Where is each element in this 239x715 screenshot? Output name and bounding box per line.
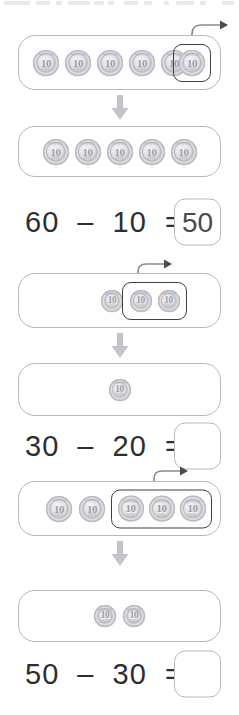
coin-row: NIPPON102021 NIPPON102021 — [19, 605, 220, 627]
coin-tick-bottom: 2021 — [88, 514, 96, 517]
answer-value: 50 — [182, 208, 213, 236]
coin-10-yen: NIPPON102021 — [130, 290, 152, 312]
coin-row: NIPPON102021 NIPPON102021 NIPPON102021 N… — [19, 139, 220, 165]
coin-tick-bottom: 2021 — [164, 304, 172, 307]
coin-10-yen: NIPPON102021 — [101, 290, 123, 312]
coin-tick-bottom: 2021 — [188, 514, 196, 517]
coin-tick-bottom: 2021 — [157, 514, 165, 517]
clipped-header-artifact — [0, 0, 239, 7]
take-away-selection-box: NIPPON102021 — [173, 44, 211, 82]
equation-row-1: 60 – 10 = 50 — [18, 196, 221, 248]
equation-expression: 30 – 20 = — [18, 432, 183, 461]
coin-10-yen: NIPPON102021 — [65, 50, 91, 76]
down-arrow-icon — [110, 333, 129, 359]
equation-expression: 60 – 10 = — [18, 208, 183, 237]
coin-tick-bottom: 2021 — [42, 68, 50, 71]
coin-10-yen: NIPPON102021 — [171, 139, 197, 165]
coin-tray-result-2: NIPPON102021 — [18, 363, 221, 416]
coin-10-yen: NIPPON102021 — [149, 496, 175, 522]
coin-tick-bottom: 2021 — [136, 304, 144, 307]
answer-box[interactable] — [174, 651, 221, 698]
coin-10-yen: NIPPON102021 — [118, 496, 144, 522]
coin-10-yen: NIPPON102021 — [94, 605, 116, 627]
coin-tick-bottom: 2021 — [51, 157, 59, 160]
coin-10-yen: NIPPON102021 — [46, 496, 72, 522]
coin-tray-result-1: NIPPON102021 NIPPON102021 NIPPON102021 N… — [18, 126, 221, 177]
coin-10-yen: NIPPON102021 — [139, 139, 165, 165]
coin-10-yen: NIPPON102021 — [109, 379, 131, 401]
coin-tick-bottom: 2021 — [188, 68, 196, 71]
coin-tray-start-3: NIPPON102021 NIPPON102021 NIPPON102021 N… — [18, 481, 221, 536]
coin-tick-bottom: 2021 — [147, 157, 155, 160]
coin-tick-bottom: 2021 — [115, 393, 123, 396]
worksheet-page: NIPPON102021 NIPPON102021 NIPPON102021 N… — [0, 0, 239, 715]
coin-tick-bottom: 2021 — [138, 68, 146, 71]
coin-tick-bottom: 2021 — [55, 514, 63, 517]
down-arrow-icon — [110, 95, 129, 121]
answer-box[interactable]: 50 — [174, 199, 221, 246]
coin-tick-bottom: 2021 — [101, 620, 109, 623]
coin-tick-bottom: 2021 — [130, 620, 138, 623]
coin-10-yen: NIPPON102021 — [97, 50, 123, 76]
coin-tray-start-2: NIPPON102021 NIPPON102021 NIPPON102021 — [18, 273, 221, 328]
coin-tick-bottom: 2021 — [179, 157, 187, 160]
coin-10-yen: NIPPON102021 — [33, 50, 59, 76]
coin-10-yen: NIPPON102021 — [107, 139, 133, 165]
coin-row: NIPPON102021 — [19, 379, 220, 401]
take-away-selection-box: NIPPON102021 NIPPON102021 NIPPON102021 — [111, 489, 212, 528]
coin-tick-bottom: 2021 — [126, 514, 134, 517]
coin-10-yen: NIPPON102021 — [129, 50, 155, 76]
coin-tick-bottom: 2021 — [83, 157, 91, 160]
equation-expression: 50 – 30 = — [18, 660, 183, 689]
take-away-selection-box: NIPPON102021 NIPPON102021 — [122, 282, 187, 320]
equation-row-3: 50 – 30 = — [18, 648, 221, 700]
coin-tick-bottom: 2021 — [106, 68, 114, 71]
equation-row-2: 30 – 20 = — [18, 420, 221, 472]
coin-tick-bottom: 2021 — [74, 68, 82, 71]
coin-tick-bottom: 2021 — [115, 157, 123, 160]
coin-10-yen: NIPPON102021 — [75, 139, 101, 165]
answer-box[interactable] — [174, 423, 221, 470]
coin-10-yen: NIPPON102021 — [180, 496, 206, 522]
coin-tray-start-1: NIPPON102021 NIPPON102021 NIPPON102021 N… — [18, 35, 221, 90]
coin-10-yen: NIPPON102021 — [43, 139, 69, 165]
coin-10-yen: NIPPON102021 — [79, 496, 105, 522]
coin-10-yen: NIPPON102021 — [158, 290, 180, 312]
coin-tick-bottom: 2021 — [108, 304, 116, 307]
coin-10-yen: NIPPON102021 — [179, 50, 205, 76]
coin-tray-result-3: NIPPON102021 NIPPON102021 — [18, 590, 221, 642]
down-arrow-icon — [110, 541, 129, 567]
coin-10-yen: NIPPON102021 — [123, 605, 145, 627]
